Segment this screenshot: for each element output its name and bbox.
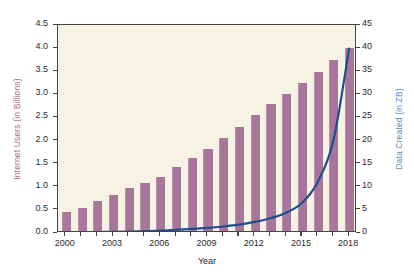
y-tick-right: [356, 24, 360, 25]
x-tick: [300, 232, 301, 236]
y-tick-label-left: 3.5: [8, 64, 48, 74]
y-tick-label-right: 30: [362, 87, 390, 97]
x-tick: [64, 232, 65, 236]
y-tick-label-left: 3.0: [8, 87, 48, 97]
y-tick-right: [356, 185, 360, 186]
y-axis-label-left: Internet Users (in Billions): [12, 59, 22, 199]
x-tick-label: 2006: [139, 238, 179, 248]
y-tick-label-right: 25: [362, 110, 390, 120]
x-tick: [237, 232, 238, 236]
y-tick-label-left: 1.5: [8, 157, 48, 167]
y-axis-label-right: Data Created (in ZB): [394, 59, 404, 199]
chart-figure: Internet Users (in Billions) Data Create…: [0, 0, 414, 273]
y-tick-right: [356, 93, 360, 94]
x-tick-label: 2003: [92, 238, 132, 248]
y-tick-label-left: 0.0: [8, 226, 48, 236]
x-axis-label: Year: [57, 256, 357, 266]
y-tick-right: [356, 139, 360, 140]
x-tick-label: 2012: [234, 238, 274, 248]
x-tick: [285, 232, 286, 236]
y-tick-label-left: 0.5: [8, 203, 48, 213]
line-series: [58, 25, 356, 232]
x-tick: [190, 232, 191, 236]
y-tick-right: [356, 208, 360, 209]
y-tick-label-right: 10: [362, 180, 390, 190]
x-tick: [80, 232, 81, 236]
y-tick-right: [356, 232, 360, 233]
y-tick-label-left: 4.0: [8, 41, 48, 51]
x-tick: [222, 232, 223, 236]
x-tick: [112, 232, 113, 236]
y-tick-right: [356, 162, 360, 163]
plot-area: [57, 24, 356, 232]
data-created-line: [66, 49, 349, 232]
y-tick-right: [356, 47, 360, 48]
x-tick: [143, 232, 144, 236]
x-tick: [127, 232, 128, 236]
y-tick-label-right: 45: [362, 18, 390, 28]
x-tick: [348, 232, 349, 236]
y-tick-label-left: 2.5: [8, 110, 48, 120]
y-tick-right: [356, 70, 360, 71]
y-tick-label-right: 5: [362, 203, 390, 213]
x-tick: [159, 232, 160, 236]
y-tick-label-left: 4.5: [8, 18, 48, 28]
y-tick-label-right: 35: [362, 64, 390, 74]
y-tick-label-left: 2.0: [8, 134, 48, 144]
x-tick-label: 2000: [45, 238, 85, 248]
x-tick-label: 2015: [281, 238, 321, 248]
y-tick-right: [356, 116, 360, 117]
x-tick: [269, 232, 270, 236]
y-tick-label-right: 15: [362, 157, 390, 167]
x-tick-label: 2018: [328, 238, 368, 248]
x-tick: [175, 232, 176, 236]
y-tick-label-right: 0: [362, 226, 390, 236]
y-tick-label-right: 20: [362, 134, 390, 144]
x-tick: [316, 232, 317, 236]
y-tick-label-right: 40: [362, 41, 390, 51]
x-tick: [96, 232, 97, 236]
x-tick: [206, 232, 207, 236]
y-tick-label-left: 1.0: [8, 180, 48, 190]
x-tick: [332, 232, 333, 236]
x-tick-label: 2009: [187, 238, 227, 248]
x-tick: [253, 232, 254, 236]
